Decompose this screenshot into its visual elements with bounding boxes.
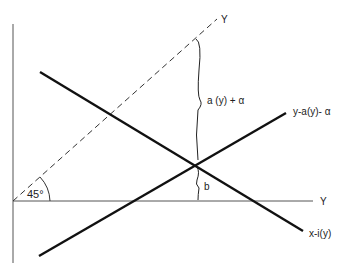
rising-line: [39, 113, 286, 256]
lower-brace: [196, 167, 199, 200]
rising-line-label: y-a(y)- α: [293, 106, 331, 117]
lower-brace-label: b: [204, 181, 210, 192]
horizontal-axis-label: Y: [320, 196, 327, 207]
diagram-canvas: Y a (y) + α y-a(y)- α b Y x-i(y) 45°: [0, 0, 345, 272]
angle-label: 45°: [27, 188, 44, 200]
upper-brace: [196, 39, 201, 160]
falling-line-label: x-i(y): [309, 228, 331, 239]
dashed-line-label: Y: [221, 14, 228, 25]
falling-line: [40, 72, 303, 231]
upper-brace-label: a (y) + α: [207, 95, 244, 106]
45-degree-dashed-line: [13, 19, 217, 201]
